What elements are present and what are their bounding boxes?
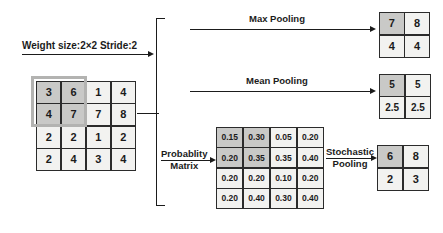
prob-cell-2-0: 0.20 bbox=[217, 169, 242, 188]
input-cell-1-3: 8 bbox=[112, 104, 135, 125]
prob-cell-1-3: 0.40 bbox=[298, 148, 323, 167]
stoch-out-cell-1-0: 2 bbox=[378, 169, 402, 190]
weight-size-stride-label: Weight size:2×2 Stride:2 bbox=[22, 40, 137, 51]
stochastic-label-underline bbox=[326, 158, 374, 159]
probability-matrix: 0.150.300.050.200.200.350.350.400.200.20… bbox=[216, 127, 324, 209]
probability-label-underline bbox=[161, 160, 213, 161]
stochastic-pooling-label-line1: Stochastic bbox=[326, 146, 374, 157]
stoch-out-cell-0-0: 6 bbox=[378, 146, 402, 167]
max-pooling-label: Max Pooling bbox=[249, 13, 305, 24]
prob-cell-3-0: 0.20 bbox=[217, 189, 242, 208]
input-cell-0-1: 6 bbox=[62, 82, 85, 103]
input-feature-map: 3614477822122434 bbox=[36, 81, 136, 171]
mean-out-cell-0-0: 5 bbox=[380, 75, 404, 96]
input-cell-0-0: 3 bbox=[37, 82, 60, 103]
max-pooling-output: 7844 bbox=[379, 12, 430, 58]
input-cell-2-1: 2 bbox=[62, 127, 85, 148]
input-cell-3-1: 4 bbox=[62, 149, 85, 170]
prob-cell-1-1: 0.35 bbox=[244, 148, 269, 167]
input-cell-0-3: 4 bbox=[112, 82, 135, 103]
prob-cell-2-1: 0.20 bbox=[244, 169, 269, 188]
input-cell-1-0: 4 bbox=[37, 104, 60, 125]
mean-out-cell-0-1: 5 bbox=[406, 75, 430, 96]
input-cell-3-2: 3 bbox=[87, 149, 110, 170]
prob-cell-3-1: 0.40 bbox=[244, 189, 269, 208]
prob-cell-1-2: 0.35 bbox=[271, 148, 296, 167]
input-cell-2-2: 1 bbox=[87, 127, 110, 148]
prob-cell-0-1: 0.30 bbox=[244, 128, 269, 147]
max-out-cell-1-0: 4 bbox=[380, 36, 404, 57]
input-cell-1-2: 7 bbox=[87, 104, 110, 125]
input-cell-2-0: 2 bbox=[37, 127, 60, 148]
mean-out-cell-1-1: 2.5 bbox=[406, 97, 430, 118]
mean-pooling-arrow-line bbox=[190, 91, 372, 92]
prob-cell-0-3: 0.20 bbox=[298, 128, 323, 147]
stochastic-pooling-output: 6823 bbox=[377, 145, 429, 191]
max-out-cell-0-1: 8 bbox=[405, 13, 429, 34]
max-pooling-arrow-head bbox=[370, 26, 376, 32]
max-out-cell-1-1: 4 bbox=[405, 36, 429, 57]
mean-out-cell-1-0: 2.5 bbox=[380, 97, 404, 118]
prob-cell-3-2: 0.30 bbox=[271, 189, 296, 208]
prob-cell-1-0: 0.20 bbox=[217, 148, 242, 167]
probability-matrix-label-line2: Matrix bbox=[170, 160, 198, 171]
max-pooling-arrow-line bbox=[190, 29, 372, 30]
input-cell-1-1: 7 bbox=[62, 104, 85, 125]
mean-pooling-label: Mean Pooling bbox=[246, 75, 308, 86]
figure-canvas: Weight size:2×2 Stride:2 361447782212243… bbox=[0, 0, 443, 233]
input-cell-3-0: 2 bbox=[37, 149, 60, 170]
input-cell-0-2: 1 bbox=[87, 82, 110, 103]
mean-pooling-output: 552.52.5 bbox=[379, 74, 431, 119]
stoch-out-cell-0-1: 8 bbox=[404, 146, 428, 167]
stoch-out-cell-1-1: 3 bbox=[404, 169, 428, 190]
stochastic-pooling-label-line2: Pooling bbox=[333, 158, 368, 169]
prob-cell-2-3: 0.20 bbox=[298, 169, 323, 188]
input-cell-3-3: 4 bbox=[112, 149, 135, 170]
input-cell-2-3: 2 bbox=[112, 127, 135, 148]
prob-cell-0-0: 0.15 bbox=[217, 128, 242, 147]
mean-pooling-arrow-head bbox=[370, 88, 376, 94]
probability-matrix-label-line1: Probablity bbox=[161, 148, 207, 159]
max-out-cell-0-0: 7 bbox=[380, 13, 404, 34]
branch-bracket bbox=[156, 18, 165, 206]
prob-cell-3-3: 0.40 bbox=[298, 189, 323, 208]
weight-arrow-head bbox=[148, 51, 154, 57]
weight-label-underline bbox=[22, 54, 150, 55]
prob-cell-2-2: 0.10 bbox=[271, 169, 296, 188]
prob-cell-0-2: 0.05 bbox=[271, 128, 296, 147]
